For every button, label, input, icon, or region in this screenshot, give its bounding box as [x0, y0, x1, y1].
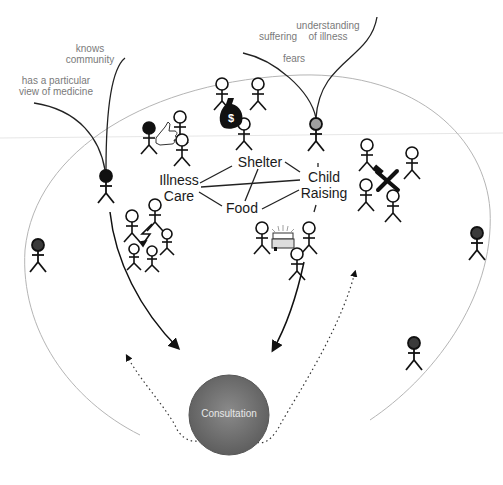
community-figure	[301, 222, 317, 254]
knows-community-line	[106, 58, 125, 170]
patient-figure	[308, 118, 324, 151]
community-figure	[404, 147, 420, 179]
community-figure	[289, 248, 305, 280]
horizon-line	[0, 133, 503, 138]
annotation-line: understanding	[293, 20, 363, 31]
view-of-medicine-line	[34, 103, 105, 170]
community-figure	[174, 134, 190, 166]
consultation-label: Consultation	[189, 408, 269, 419]
svg-text:$: $	[228, 112, 234, 124]
doctor-figure	[98, 170, 114, 203]
node-label: Care	[154, 188, 204, 204]
annotation-view-of-medicine: has a particular view of medicine	[14, 75, 98, 97]
node-label: Child	[299, 169, 349, 185]
annotation-line: has a particular	[14, 75, 98, 86]
annotation-line: community	[60, 54, 120, 65]
community-figure	[127, 244, 141, 270]
annotation-line: of illness	[293, 31, 363, 42]
outsider-figure-bottom-right	[406, 337, 422, 370]
node-shelter: Shelter	[233, 154, 287, 170]
node-label: Illness	[154, 172, 204, 188]
node-illness-care: Illness Care	[154, 172, 204, 204]
node-child-raising: Child Raising	[299, 169, 349, 201]
annotation-knows-community: knows community	[60, 43, 120, 65]
community-boundary	[25, 75, 491, 435]
annotation-understanding-of-illness: understanding of illness	[293, 20, 363, 42]
community-figure	[145, 246, 159, 272]
community-figure	[160, 229, 174, 255]
annotation-fears: fears	[276, 53, 312, 64]
police-car-icon	[272, 225, 294, 251]
node-food: Food	[222, 200, 262, 216]
node-label: Raising	[299, 185, 349, 201]
annotation-line: view of medicine	[14, 86, 98, 97]
outsider-figure-left	[30, 239, 46, 272]
community-figure	[250, 78, 266, 110]
community-figure	[124, 210, 140, 242]
community-figure	[385, 190, 401, 222]
community-figure	[254, 222, 270, 254]
patient-to-consultation-arrow	[273, 262, 304, 350]
community-figure	[359, 139, 375, 171]
community-figure	[358, 179, 374, 211]
hammer-wrench-icon	[372, 164, 398, 190]
doctor-like-figure	[141, 122, 157, 154]
annotation-line: knows	[60, 43, 120, 54]
thumbs-up-icon	[156, 122, 177, 145]
outsider-figure-right	[469, 227, 485, 260]
